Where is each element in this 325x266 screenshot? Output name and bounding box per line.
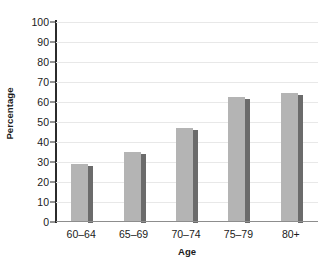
y-axis-tick-label: 90	[14, 37, 54, 48]
y-axis-tick-label: 0	[14, 217, 54, 228]
bar	[281, 93, 303, 221]
y-axis-tick-label: 10	[14, 197, 54, 208]
gridline	[56, 122, 318, 123]
gridline	[56, 22, 318, 23]
y-axis-tick-label: 100	[14, 17, 54, 28]
bar	[124, 152, 146, 221]
bar-side	[141, 154, 146, 223]
y-axis-tick-mark	[50, 222, 56, 223]
bar-face	[71, 164, 88, 221]
x-axis-tick-label: 60–64	[67, 228, 96, 240]
bar-face	[228, 97, 245, 221]
y-axis-tick-label: 30	[14, 157, 54, 168]
y-axis-tick-label: 40	[14, 137, 54, 148]
bar	[228, 97, 250, 221]
gridline	[56, 42, 318, 43]
bar-chart: Percentage 0102030405060708090100 60–646…	[0, 0, 325, 266]
y-axis-tick-mark	[50, 162, 56, 163]
plot-area	[56, 22, 318, 222]
y-axis-tick-label: 60	[14, 97, 54, 108]
x-axis-title: Age	[56, 246, 318, 257]
y-axis-tick-mark	[50, 122, 56, 123]
y-axis-title-text: Percentage	[4, 87, 15, 139]
y-axis-tick-label: 50	[14, 117, 54, 128]
x-axis-tick-label: 80+	[282, 228, 300, 240]
x-axis-tick-label: 65–69	[119, 228, 148, 240]
y-axis-tick-mark	[50, 202, 56, 203]
gridline	[56, 82, 318, 83]
bar-face	[281, 93, 298, 221]
gridline	[56, 102, 318, 103]
y-axis-tick-mark	[50, 142, 56, 143]
y-axis-tick-mark	[50, 62, 56, 63]
bar-side	[245, 99, 250, 223]
y-axis-tick-mark	[50, 182, 56, 183]
bar-face	[124, 152, 141, 221]
bar	[176, 128, 198, 221]
y-axis-tick-mark	[50, 82, 56, 83]
bar-side	[88, 166, 93, 223]
x-axis-tick-label: 70–74	[171, 228, 200, 240]
gridline	[56, 62, 318, 63]
y-axis-tick-label: 20	[14, 177, 54, 188]
bar-side	[298, 95, 303, 223]
x-axis-line	[56, 221, 318, 222]
y-axis-tick-mark	[50, 102, 56, 103]
y-axis-tick-mark	[50, 22, 56, 23]
y-axis-tick-label: 80	[14, 57, 54, 68]
bar	[71, 164, 93, 221]
y-axis-tick-mark	[50, 42, 56, 43]
x-axis-tick-label: 75–79	[224, 228, 253, 240]
y-axis-tick-label: 70	[14, 77, 54, 88]
bar-face	[176, 128, 193, 221]
y-axis-tick-labels: 0102030405060708090100	[14, 0, 54, 266]
bar-side	[193, 130, 198, 223]
